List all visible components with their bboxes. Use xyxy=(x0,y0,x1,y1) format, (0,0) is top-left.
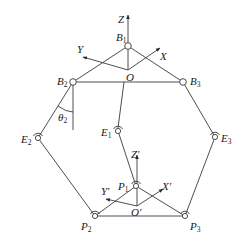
label-y-prime: Y' xyxy=(101,185,110,197)
label-o: O xyxy=(126,71,134,83)
joint-b3 xyxy=(180,79,187,86)
arm-b1-e1 xyxy=(118,82,124,128)
joint-e2 xyxy=(34,133,43,140)
label-theta2: θ2 xyxy=(58,111,67,125)
label-p2: P2 xyxy=(80,220,92,234)
arm-b3-e3 xyxy=(183,82,215,137)
joint-p3 xyxy=(181,211,190,218)
joint-b2 xyxy=(70,79,77,86)
label-z-prime: Z' xyxy=(131,148,140,160)
label-b1: B1 xyxy=(116,31,127,45)
label-o-prime: O' xyxy=(131,206,142,218)
label-e1: E1 xyxy=(100,126,112,140)
legs xyxy=(38,82,215,216)
joint-e3 xyxy=(211,132,220,139)
label-b2: B2 xyxy=(57,75,68,89)
label-p1: P1 xyxy=(117,180,129,194)
label-x-prime: X' xyxy=(161,180,172,192)
label-z: Z xyxy=(118,13,125,25)
label-y: Y xyxy=(77,43,85,55)
joint-p2 xyxy=(91,211,100,218)
label-e2: E2 xyxy=(20,133,32,147)
label-x: X xyxy=(159,50,168,62)
y-axis-arrow xyxy=(83,57,128,70)
arm-b2-e2 xyxy=(38,82,73,138)
label-e3: E3 xyxy=(220,132,232,146)
rod-e3-p3 xyxy=(185,137,215,216)
delta-robot-diagram: Z Y X O B1 B2 B3 θ2 E1 E2 E3 Z' Y' X' O'… xyxy=(0,0,244,251)
x-prime-axis-arrow xyxy=(137,189,163,206)
x-axis-arrow xyxy=(128,48,160,70)
label-p3: P3 xyxy=(189,220,201,234)
label-b3: B3 xyxy=(190,75,201,89)
rod-e2-p2 xyxy=(38,138,95,216)
